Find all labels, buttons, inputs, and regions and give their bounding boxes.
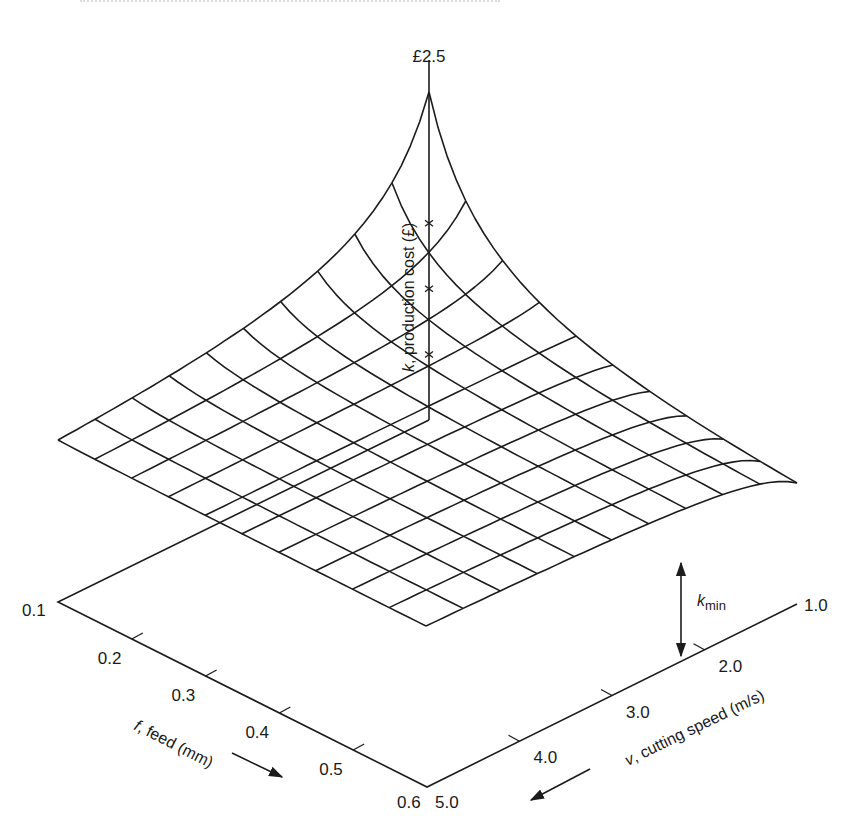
z-axis-max-label: £2.5 xyxy=(412,47,445,66)
feed-tick-label: 0.2 xyxy=(98,649,122,668)
z-axis-title: k, production cost (£) xyxy=(400,223,417,372)
speed-tick-label: 2.0 xyxy=(719,657,743,676)
feed-tick-label: 0.5 xyxy=(319,760,343,779)
speed-tick-label: 4.0 xyxy=(534,748,558,767)
speed-tick-label: 1.0 xyxy=(804,596,828,615)
speed-axis-title: v, cutting speed (m/s) xyxy=(622,686,767,768)
feed-tick-label: 0.4 xyxy=(245,723,269,742)
speed-tick-label: 3.0 xyxy=(626,703,650,722)
speed-direction-arrow-icon xyxy=(531,769,590,800)
surface-plot: £2.5 k, production cost (£) f, feed (mm)… xyxy=(0,0,859,836)
feed-direction-arrow-icon xyxy=(232,753,282,777)
z-axis xyxy=(425,60,433,420)
svg-text:k, production cost (£): k, production cost (£) xyxy=(400,223,417,372)
kmin-label: kmin xyxy=(697,592,726,613)
feed-tick-label: 0.1 xyxy=(22,601,46,620)
svg-text:f, feed (mm): f, feed (mm) xyxy=(132,717,217,771)
feed-tick-labels: 0.10.20.30.40.50.6 xyxy=(22,601,421,812)
svg-text:v, cutting speed (m/s): v, cutting speed (m/s) xyxy=(622,686,767,768)
feed-tick-label: 0.6 xyxy=(397,793,421,812)
feed-tick-label: 0.3 xyxy=(172,686,196,705)
feed-axis-title: f, feed (mm) xyxy=(132,717,217,771)
speed-tick-label: 5.0 xyxy=(435,793,459,812)
speed-tick-labels: 1.02.03.04.05.0 xyxy=(435,596,828,812)
cost-surface-mesh xyxy=(58,92,797,626)
